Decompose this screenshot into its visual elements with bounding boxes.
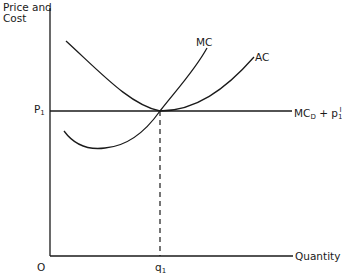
y-axis-label: Price and Cost (3, 2, 52, 24)
ac-label: AC (255, 52, 269, 63)
origin-label: O (37, 262, 45, 273)
price-p1-label: P1 (34, 104, 45, 119)
mc-curve (64, 48, 207, 148)
x-axis-label: Quantity (295, 251, 340, 262)
mc-d-plus-p1-label: MCD + p1I (294, 105, 341, 123)
q1-label: q1 (155, 262, 166, 277)
ac-curve (66, 41, 254, 111)
mc-label: MC (196, 37, 212, 48)
y-axis-label-line2: Cost (3, 13, 52, 24)
